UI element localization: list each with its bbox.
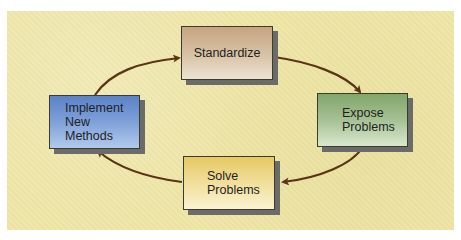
node-solve-problems: Solve Problems [183,156,275,210]
arrow-solve-to-implement [98,151,182,182]
arrow-standardize-to-expose [274,57,360,92]
node-expose-label-line2: Problems [342,120,395,134]
node-standardize: Standardize [181,26,273,80]
node-solve-label-line1: Solve [207,169,260,183]
arrow-implement-to-standardize [95,58,179,95]
node-standardize-label: Standardize [194,46,261,60]
node-implement-new-methods: Implement New Methods [49,95,140,149]
node-expose-problems: Expose Problems [317,93,408,147]
arrow-expose-to-solve [283,148,362,182]
node-solve-label-line2: Problems [207,183,260,197]
node-implement-label-line1: Implement [65,101,139,115]
node-expose-label-line1: Expose [342,106,395,120]
node-implement-label-line2: New Methods [65,115,139,143]
